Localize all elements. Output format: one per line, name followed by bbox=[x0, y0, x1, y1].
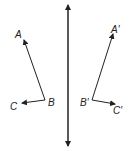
original-angle: A B C bbox=[10, 29, 55, 112]
label-a: A bbox=[14, 29, 22, 40]
label-b-prime: B′ bbox=[80, 97, 90, 108]
reflected-angle: A′ B′ C′ bbox=[80, 24, 123, 116]
ray-b-prime-c-prime bbox=[92, 100, 115, 104]
reflection-diagram: A B C A′ B′ C′ bbox=[0, 0, 130, 151]
label-a-prime: A′ bbox=[110, 24, 121, 35]
label-c: C bbox=[10, 101, 18, 112]
ray-ba bbox=[24, 40, 45, 100]
label-b: B bbox=[48, 97, 55, 108]
ray-bc bbox=[22, 100, 45, 103]
label-c-prime: C′ bbox=[113, 105, 123, 116]
ray-b-prime-a-prime bbox=[92, 34, 113, 100]
